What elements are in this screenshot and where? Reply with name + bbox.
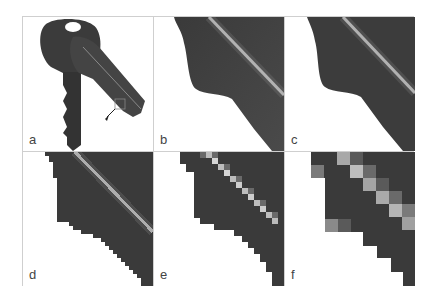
edge-closeup-c (285, 17, 415, 151)
panel-label: d (29, 267, 36, 282)
figure-grid: a b c (22, 16, 414, 286)
panel-d: d (23, 152, 153, 286)
panel-b: b (154, 17, 284, 151)
panel-f: f (285, 152, 415, 286)
edge-pixelated-e (154, 152, 284, 286)
panel-label: b (160, 132, 167, 147)
panel-c: c (285, 17, 415, 151)
keys-photo (23, 17, 153, 151)
panel-label: f (291, 267, 295, 282)
edge-closeup-b (154, 17, 284, 151)
edge-pixelated-d (23, 152, 153, 286)
panel-label: e (160, 267, 167, 282)
panel-label: c (291, 132, 298, 147)
panel-e: e (154, 152, 284, 286)
panel-a: a (23, 17, 153, 151)
edge-pixelated-f (285, 152, 415, 286)
panel-label: a (29, 132, 36, 147)
